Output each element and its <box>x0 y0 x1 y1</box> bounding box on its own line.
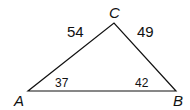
angle-label-a: 37 <box>55 76 69 90</box>
vertex-label-c: C <box>109 4 120 21</box>
vertex-label-a: A <box>13 92 24 109</box>
angle-label-b: 42 <box>135 76 149 90</box>
triangle-diagram: C A B 54 49 37 42 <box>0 0 190 110</box>
side-label-ac: 54 <box>67 23 84 40</box>
side-label-bc: 49 <box>137 23 154 40</box>
vertex-label-b: B <box>173 92 183 109</box>
triangle-abc <box>28 23 176 91</box>
